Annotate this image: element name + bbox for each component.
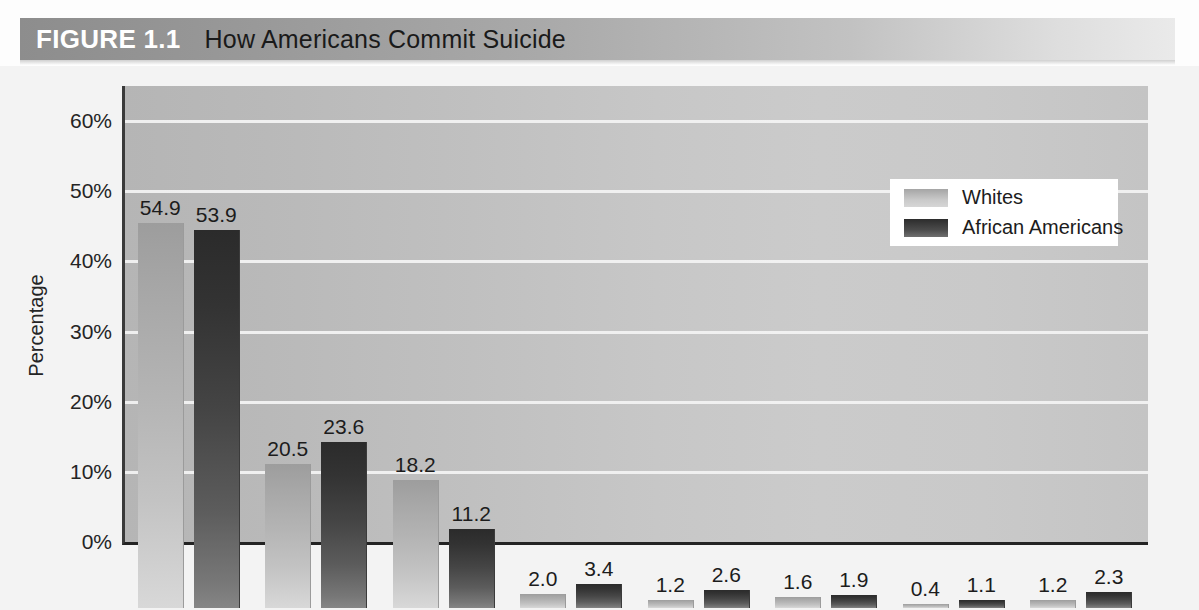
bar-slot: 18.2 [393,152,438,608]
chart-area: Percentage 0%10%20%30%40%50%60% 54.953.9… [0,66,1199,610]
y-axis-tick-label: 40% [70,249,112,273]
y-axis-tick-label: 10% [70,460,112,484]
legend-item[interactable]: Whites [904,187,1118,209]
figure-title-banner: FIGURE 1.1 How Americans Commit Suicide [20,18,1175,60]
bar[interactable]: 0.4 [903,604,949,608]
bar-value-label: 2.3 [1094,565,1123,589]
bar[interactable]: 18.2 [393,480,439,608]
bar-slot: 23.6 [322,152,367,608]
bar[interactable]: 1.6 [775,597,821,608]
y-axis-tick-label: 50% [70,179,112,203]
bar-group: 1.61.9 [763,152,891,608]
bar-slot: 2.6 [704,152,749,608]
bar-value-label: 3.4 [584,557,613,581]
bar-value-label: 53.9 [196,203,237,227]
y-axis-tick-label: 0% [82,530,112,554]
bar-value-label: 1.1 [967,573,996,597]
figure-root: FIGURE 1.1 How Americans Commit Suicide … [0,0,1199,610]
bar-slot: 3.4 [577,152,622,608]
y-axis-tick-label: 60% [70,109,112,133]
legend-swatch [904,219,948,237]
legend-swatch [904,189,948,207]
bar[interactable]: 53.9 [194,230,240,608]
bar-slot: 2.0 [521,152,566,608]
bar[interactable]: 1.2 [648,600,694,608]
bar[interactable]: 1.9 [831,595,877,608]
bar-value-label: 2.6 [712,563,741,587]
bar-group: 54.953.9 [125,152,253,608]
chart-legend: WhitesAfrican Americans [890,179,1118,246]
bar-value-label: 1.9 [839,568,868,592]
bar-slot: 54.9 [138,152,183,608]
bar-value-label: 1.6 [783,570,812,594]
legend-label: Whites [962,186,1023,209]
bar-value-label: 23.6 [323,415,364,439]
bar[interactable]: 1.1 [959,600,1005,608]
bar-group: 20.523.6 [253,152,381,608]
bar-group: 2.03.4 [508,152,636,608]
bar[interactable]: 11.2 [449,529,495,608]
figure-number-label: FIGURE 1.1 [36,24,181,55]
bar-group: 18.211.2 [380,152,508,608]
bar-slot: 1.6 [776,152,821,608]
bar-value-label: 1.2 [1038,573,1067,597]
bar-slot: 1.9 [832,152,877,608]
bar-slot: 1.2 [648,152,693,608]
legend-item[interactable]: African Americans [904,217,1118,239]
bar[interactable]: 1.2 [1030,600,1076,608]
bar-slot: 20.5 [266,152,311,608]
bar-slot: 53.9 [194,152,239,608]
y-axis-tick-labels: 0%10%20%30%40%50%60% [0,86,112,542]
bar[interactable]: 54.9 [138,223,184,608]
legend-label: African Americans [962,216,1123,239]
bar-value-label: 2.0 [528,567,557,591]
bar[interactable]: 20.5 [265,464,311,608]
bar[interactable]: 2.3 [1086,592,1132,608]
figure-title-text: How Americans Commit Suicide [205,25,566,54]
bar-value-label: 54.9 [140,196,181,220]
bar-value-label: 1.2 [656,573,685,597]
bar-group: 1.22.6 [635,152,763,608]
gridline [125,120,1148,123]
title-banner-shadow [20,60,1175,65]
bar[interactable]: 2.6 [704,590,750,608]
bar-value-label: 11.2 [452,502,491,526]
bar-value-label: 18.2 [395,453,436,477]
y-axis-tick-label: 30% [70,320,112,344]
bar-slot: 11.2 [449,152,494,608]
bar[interactable]: 23.6 [321,442,367,608]
y-axis-tick-label: 20% [70,390,112,414]
bar[interactable]: 3.4 [576,584,622,608]
bar[interactable]: 2.0 [520,594,566,608]
bar-value-label: 20.5 [267,437,308,461]
bar-value-label: 0.4 [911,577,940,601]
